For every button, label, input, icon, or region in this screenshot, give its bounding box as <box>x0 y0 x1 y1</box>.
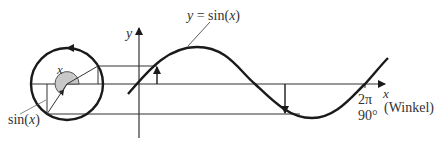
sine-curve <box>128 47 388 118</box>
sin-label: sin(x) <box>8 112 40 128</box>
circle-direction-arrow-icon <box>66 44 74 52</box>
y-axis-label: y <box>124 26 133 41</box>
period-radians-label: 2π <box>358 92 372 107</box>
sine-unit-circle-diagram: y = sin(x) y x x sin(x) 2π 90° (Winkel) <box>0 0 436 145</box>
angle-label: x <box>56 62 63 77</box>
period-degrees-label: 90° <box>358 108 378 123</box>
curve-label: y = sin(x) <box>185 8 240 24</box>
angle-unit-label: (Winkel) <box>384 100 434 116</box>
x-axis-label: x <box>382 86 389 101</box>
curve-label-leader <box>188 22 210 46</box>
